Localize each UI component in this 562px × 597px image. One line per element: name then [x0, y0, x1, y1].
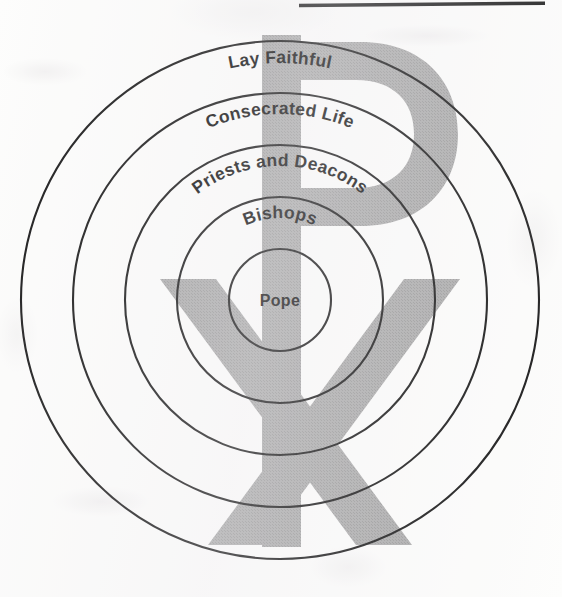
concentric-hierarchy-diagram: Lay Faithful Consecrated Life Priests an…	[0, 0, 562, 597]
scan-edge-line	[299, 3, 545, 5]
diagram-page: Lay Faithful Consecrated Life Priests an…	[0, 0, 562, 597]
ring-label-pope: Pope	[260, 292, 300, 309]
